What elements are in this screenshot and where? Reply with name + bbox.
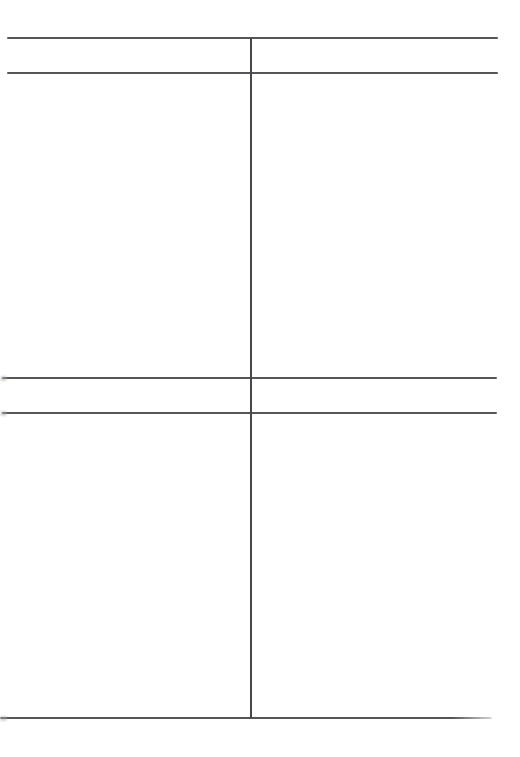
table-cell-body-row-1-col1 <box>7 73 251 378</box>
table-cell-body-row-2-col1 <box>7 413 251 718</box>
column-divider <box>250 38 252 718</box>
header-bottom-rule <box>7 72 498 74</box>
table-bottom-rule <box>0 717 492 719</box>
table-cell-header-band-col1 <box>7 38 251 73</box>
table-cell-body-row-1-col2 <box>251 73 498 378</box>
table-top-rule <box>7 37 498 39</box>
left-edge-smudge-1 <box>0 376 7 381</box>
table-cell-middle-band-col1 <box>7 378 251 413</box>
scanned-page <box>0 0 520 757</box>
table-cell-header-band-col2 <box>251 38 498 73</box>
left-edge-smudge-3 <box>0 716 7 721</box>
table-cell-body-row-2-col2 <box>251 413 498 718</box>
left-edge-smudge-2 <box>0 411 7 416</box>
table-cell-middle-band-col2 <box>251 378 498 413</box>
